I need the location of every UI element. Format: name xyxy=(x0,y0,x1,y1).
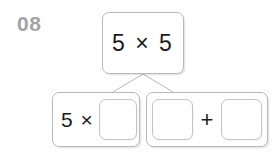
answer-blank-left[interactable] xyxy=(99,99,137,140)
problem-number-label: 08 xyxy=(17,13,41,34)
plus-operator-symbol: + xyxy=(200,109,215,131)
bottom-left-card: 5 × xyxy=(52,92,140,147)
answer-blank-right-first[interactable] xyxy=(152,99,193,140)
top-expression-card: 5 × 5 xyxy=(102,12,184,74)
worksheet-canvas: 08 5 × 5 5 × + xyxy=(0,0,279,157)
answer-blank-right-second[interactable] xyxy=(221,99,262,140)
left-card-prefix-text: 5 × xyxy=(61,109,94,130)
top-expression-text: 5 × 5 xyxy=(112,32,174,55)
bottom-right-card: + xyxy=(146,92,268,147)
